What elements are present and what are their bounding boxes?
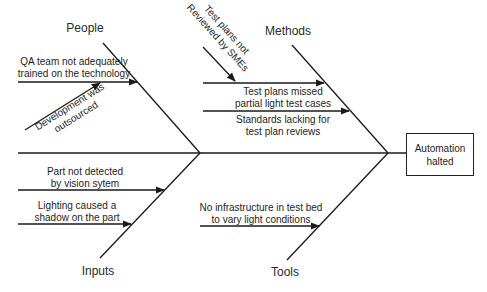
cause-standards-lacking: Standards lacking for test plan reviews bbox=[218, 114, 348, 138]
category-people: People bbox=[66, 21, 103, 35]
category-inputs: Inputs bbox=[82, 264, 115, 278]
cause-qa-team: QA team not adequately trained on the te… bbox=[14, 56, 134, 80]
cause-lighting-shadow: Lighting caused a shadow on the part bbox=[22, 200, 132, 224]
fishbone-diagram: People Methods Inputs Tools QA team not … bbox=[0, 0, 487, 292]
cause-test-plans-missed: Test plans missed partial light test cas… bbox=[218, 86, 348, 110]
category-methods: Methods bbox=[265, 24, 311, 38]
effect-box: Automation halted bbox=[406, 133, 474, 176]
category-tools: Tools bbox=[271, 265, 299, 279]
cause-part-not-detected: Part not detected by vision sytem bbox=[30, 166, 140, 190]
cause-no-infrastructure: No infrastructure in test bed to vary li… bbox=[196, 202, 326, 226]
